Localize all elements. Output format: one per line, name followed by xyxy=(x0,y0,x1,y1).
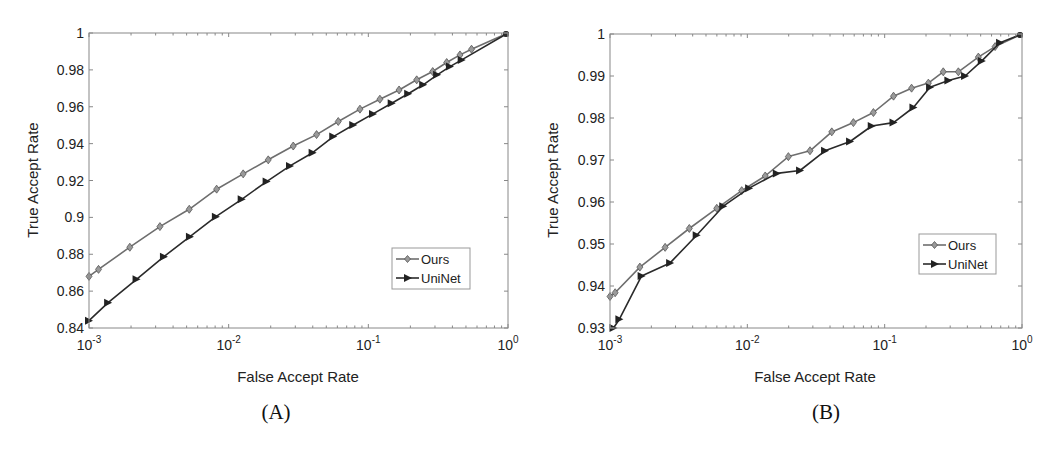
legend-label-ours-a: Ours xyxy=(421,252,450,267)
y-tick-label: 0.93 xyxy=(578,320,605,336)
legend-label-ours-b: Ours xyxy=(948,238,977,253)
triangle-marker-icon xyxy=(388,99,396,107)
diamond-marker-icon xyxy=(850,119,856,127)
diamond-marker-icon xyxy=(469,45,475,53)
y-axis-label-b: True Accept Rate xyxy=(544,122,561,237)
diamond-marker-icon xyxy=(955,68,961,76)
diamond-marker-icon xyxy=(186,205,192,213)
diamond-marker-icon xyxy=(686,224,692,232)
y-tick-label: 0.96 xyxy=(578,194,605,210)
panel-b: 0.930.940.950.960.970.980.99110-310-210-… xyxy=(544,26,1033,424)
triangle-marker-icon xyxy=(286,162,294,170)
diamond-marker-icon xyxy=(157,223,163,231)
diamond-marker-icon xyxy=(940,68,946,76)
x-tick-label: 100 xyxy=(1011,334,1033,353)
y-tick-label: 0.96 xyxy=(57,99,84,115)
x-tick-label: 10-1 xyxy=(872,334,897,353)
diamond-marker-icon xyxy=(96,265,102,273)
caption-b: (B) xyxy=(812,400,840,424)
y-tick-label: 0.95 xyxy=(578,236,605,252)
diamond-marker-icon xyxy=(785,153,791,161)
x-tick-label: 10-2 xyxy=(735,334,760,353)
diamond-marker-icon xyxy=(414,76,420,84)
diamond-marker-icon xyxy=(290,142,296,150)
diamond-marker-icon xyxy=(377,95,383,103)
y-tick-label: 1 xyxy=(597,26,605,42)
y-tick-label: 0.86 xyxy=(57,283,84,299)
x-tick-label: 100 xyxy=(497,334,519,353)
x-axis-label-b: False Accept Rate xyxy=(754,368,876,385)
y-tick-label: 0.94 xyxy=(57,136,84,152)
diamond-marker-icon xyxy=(335,118,341,126)
legend-label-uninet-a: UniNet xyxy=(421,271,461,286)
series-line-uninet xyxy=(614,34,1023,328)
triangle-marker-icon xyxy=(446,63,454,71)
panel-a: 0.840.860.880.90.920.940.960.98110-310-2… xyxy=(24,25,519,424)
x-tick-label: 10-2 xyxy=(216,334,241,353)
diamond-marker-icon xyxy=(396,86,402,94)
diamond-marker-icon xyxy=(214,185,220,193)
triangle-marker-icon xyxy=(349,121,357,129)
triangle-marker-icon xyxy=(944,77,952,85)
y-tick-label: 0.94 xyxy=(578,278,605,294)
legend-b: Ours UniNet xyxy=(919,234,996,274)
x-axis-label-a: False Accept Rate xyxy=(237,368,359,385)
triangle-marker-icon xyxy=(821,147,829,155)
y-tick-label: 0.99 xyxy=(578,68,605,84)
y-tick-label: 0.88 xyxy=(57,246,84,262)
diamond-marker-icon xyxy=(891,92,897,100)
axis-ticks-a: 0.840.860.880.90.920.940.960.98110-310-2… xyxy=(57,25,519,353)
diamond-marker-icon xyxy=(265,156,271,164)
diamond-marker-icon xyxy=(357,105,363,113)
legend-label-uninet-b: UniNet xyxy=(948,257,988,272)
y-tick-label: 0.92 xyxy=(57,173,84,189)
diamond-marker-icon xyxy=(870,109,876,117)
triangle-marker-icon xyxy=(868,122,876,130)
y-axis-label-a: True Accept Rate xyxy=(24,122,41,237)
triangle-marker-icon xyxy=(773,169,781,177)
triangle-marker-icon xyxy=(369,110,377,118)
plot-series-b xyxy=(607,32,1023,332)
y-tick-label: 0.98 xyxy=(57,62,84,78)
y-tick-label: 1 xyxy=(76,25,84,41)
triangle-marker-icon xyxy=(433,71,441,79)
diamond-marker-icon xyxy=(909,84,915,92)
triangle-marker-icon xyxy=(638,272,646,280)
triangle-marker-icon xyxy=(615,315,623,323)
y-tick-label: 0.84 xyxy=(57,320,84,336)
x-tick-label: 10-3 xyxy=(598,334,623,353)
figure-canvas: 0.840.860.880.90.920.940.960.98110-310-2… xyxy=(0,0,1050,449)
triangle-marker-icon xyxy=(329,133,337,141)
triangle-marker-icon xyxy=(996,39,1004,47)
legend-a: Ours UniNet xyxy=(392,248,470,289)
diamond-marker-icon xyxy=(314,131,320,139)
y-tick-label: 0.97 xyxy=(578,152,605,168)
diamond-marker-icon xyxy=(127,243,133,251)
diamond-marker-icon xyxy=(240,170,246,178)
triangle-marker-icon xyxy=(404,90,412,98)
x-tick-label: 10-1 xyxy=(356,334,381,353)
y-tick-label: 0.98 xyxy=(578,110,605,126)
x-tick-label: 10-3 xyxy=(77,334,102,353)
caption-a: (A) xyxy=(261,400,290,424)
y-tick-label: 0.9 xyxy=(65,209,85,225)
diamond-marker-icon xyxy=(662,243,668,251)
